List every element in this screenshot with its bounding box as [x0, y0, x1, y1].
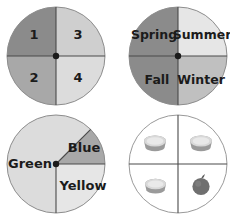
sector-label-summer: Summer	[173, 27, 230, 42]
sector-label-spring: Spring	[131, 27, 177, 42]
sector-label-fall: Fall	[145, 72, 170, 87]
sector-label-yellow: Yellow	[59, 178, 107, 193]
spinner-objects[interactable]	[126, 112, 230, 216]
bowl-icon	[144, 136, 166, 152]
sector-label-blue: Blue	[68, 140, 101, 155]
sector-label-4: 4	[73, 70, 82, 85]
spinner-colors[interactable]: Green Blue Yellow	[4, 112, 108, 216]
spinner-hub	[53, 53, 59, 59]
sector-label-3: 3	[73, 27, 82, 42]
spinner-hub	[53, 161, 59, 167]
bowl-icon	[145, 179, 166, 194]
spinner-seasons[interactable]: Spring Summer Fall Winter	[126, 4, 230, 108]
sector-label-2: 2	[29, 70, 38, 85]
spinner-sheet: 1 3 2 4 Spring Summer Fall Winter	[0, 0, 234, 220]
spinner-numbers[interactable]: 1 3 2 4	[4, 4, 108, 108]
sector-label-1: 1	[29, 27, 38, 42]
spinner-hub	[175, 53, 181, 59]
sector-label-winter: Winter	[177, 72, 225, 87]
bowl-icon	[190, 136, 212, 152]
sector-label-green: Green	[8, 156, 52, 171]
